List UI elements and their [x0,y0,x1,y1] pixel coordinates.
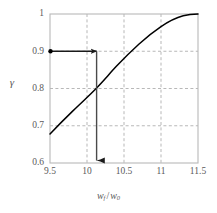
y-tick-label-0.7: 0.7 [18,121,44,131]
axis-dot-marker [48,49,52,53]
x-tick-label-11: 11 [147,167,175,177]
y-axis-title: γ [5,77,19,88]
x-tick-label-10: 10 [73,167,101,177]
y-tick-label-0.8: 0.8 [18,84,44,94]
x-tick-label-11.5: 11.5 [184,167,212,177]
y-tick-label-1: 1 [18,9,44,19]
y-tick-label-0.9: 0.9 [18,47,44,57]
x-axis-numerator-symbol: w [97,190,104,201]
x-axis-denominator-symbol: w [110,190,117,201]
chart-figure: 1 0.9 0.8 0.7 0.6 9.5 10 10.5 11 11.5 γ … [0,0,217,213]
x-axis-title: wf/w0 [0,191,217,202]
x-tick-label-10.5: 10.5 [110,167,138,177]
x-axis-denominator-subscript: 0 [117,194,120,201]
x-tick-label-9.5: 9.5 [36,167,64,177]
plot-area [0,0,217,213]
